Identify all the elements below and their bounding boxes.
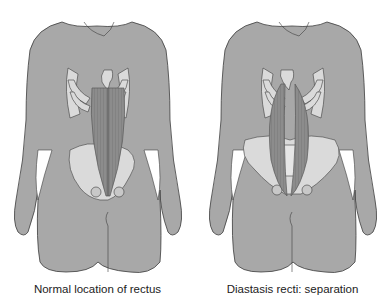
figure-diastasis-recti	[195, 0, 389, 275]
torso-illustration-normal	[0, 0, 195, 275]
figure-normal-rectus	[0, 0, 195, 275]
caption-normal: Normal location of rectus	[0, 283, 195, 295]
torso-illustration-diastasis	[195, 0, 389, 275]
caption-diastasis: Diastasis recti: separation	[195, 283, 389, 295]
